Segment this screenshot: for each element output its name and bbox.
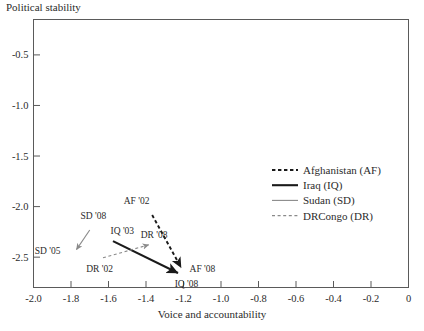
plot-frame [34,20,409,288]
series-arrow-AF [152,215,181,268]
y-tick-label: -2.0 [12,201,29,212]
x-tick-label: -1.0 [213,293,230,304]
legend-label-DR: DRCongo (DR) [303,210,373,223]
y-tick-label: -2.5 [12,252,29,263]
x-tick-label: -0.2 [363,293,380,304]
legend-label-IQ: Iraq (IQ) [303,179,343,192]
x-tick-label: -0.8 [250,293,267,304]
x-axis-ticks: -2.0-1.8-1.6-1.4-1.2-1.0-0.8-0.6-0.4-0.2… [25,281,411,304]
x-tick-label: 0 [406,293,411,304]
x-axis-title: Voice and accountability [0,308,424,320]
point-labels-layer: AF '02AF '08IQ '03IQ '08SD '08SD '05DR '… [35,196,216,290]
chart-legend: Afghanistan (AF)Iraq (IQ)Sudan (SD)DRCon… [272,164,381,223]
point-label-DR08: DR '08 [141,230,168,240]
legend-label-AF: Afghanistan (AF) [303,164,381,177]
y-tick-label: -0.5 [12,49,29,60]
point-label-IQ08: IQ '08 [175,279,199,289]
y-tick-label: -1.0 [12,100,29,111]
y-axis-ticks: -0.5-1.0-1.5-2.0-2.5 [12,49,40,262]
chart-title: Political stability [6,1,81,13]
x-tick-label: -1.6 [100,293,117,304]
chart-figure: Political stability -2.0-1.8-1.6-1.4-1.2… [0,0,424,331]
point-label-AF02: AF '02 [124,196,150,206]
point-label-SD05: SD '05 [35,246,61,256]
legend-label-SD: Sudan (SD) [303,194,355,207]
x-tick-label: -1.2 [175,293,192,304]
scatter-plot-canvas: -2.0-1.8-1.6-1.4-1.2-1.0-0.8-0.6-0.4-0.2… [0,0,424,331]
x-tick-label: -1.8 [63,293,80,304]
point-label-IQ03: IQ '03 [111,226,135,236]
point-label-DR02: DR '02 [86,264,113,274]
y-tick-label: -1.5 [12,151,29,162]
x-tick-label: -1.4 [138,293,155,304]
point-label-AF08: AF '08 [190,264,216,274]
series-arrow-IQ [113,241,178,273]
series-arrow-SD [76,230,89,250]
x-tick-label: -0.4 [325,293,342,304]
x-tick-label: -2.0 [25,293,42,304]
point-label-SD08: SD '08 [81,211,107,221]
x-tick-label: -0.6 [288,293,305,304]
